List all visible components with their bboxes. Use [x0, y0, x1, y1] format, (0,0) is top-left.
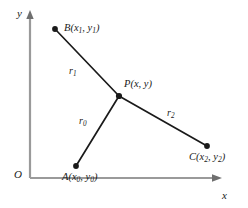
segment-label-r1: r1 — [69, 66, 77, 76]
segment-label-r0: r0 — [79, 116, 87, 126]
y-axis-label: y — [17, 8, 22, 19]
point-label-A: A(x0, y0) — [62, 172, 98, 183]
y-axis-arrow-icon — [26, 10, 33, 19]
point-label-A-mid: , y — [80, 171, 90, 182]
point-label-B: B(x1, y1) — [64, 23, 100, 34]
point-marker-C — [204, 143, 210, 149]
segment-label-r2: r2 — [167, 108, 175, 118]
point-label-B-mid: , y — [82, 22, 92, 33]
point-label-P: P(x, y) — [124, 79, 152, 90]
point-label-C-sub2: 2 — [218, 155, 222, 164]
segment-label-r0-sub: 0 — [83, 120, 87, 128]
point-marker-A — [73, 163, 79, 169]
point-label-B-sub2: 1 — [92, 26, 96, 35]
point-label-B-head: B(x — [64, 22, 79, 33]
point-label-B-sub1: 1 — [79, 26, 83, 35]
figure-canvas — [0, 0, 248, 208]
segment-label-r2-sub: 2 — [171, 112, 175, 120]
point-marker-B — [52, 26, 58, 32]
segment-r2-line — [119, 96, 207, 146]
point-label-C-sub1: 2 — [204, 155, 208, 164]
segment-r0-line — [76, 96, 119, 166]
segment-label-r1-sub: 1 — [73, 70, 77, 78]
point-label-A-sub2: 0 — [90, 175, 94, 184]
point-label-C-head: C(x — [189, 151, 204, 162]
point-label-A-close: ) — [94, 171, 98, 182]
x-axis-arrow-icon — [212, 174, 222, 182]
figure-container: y x O B(x1, y1) P(x, y) C(x2, y2) A(x0, … — [0, 0, 248, 208]
point-label-C: C(x2, y2) — [189, 152, 225, 163]
point-label-A-sub1: 0 — [77, 175, 81, 184]
x-axis-label: x — [222, 190, 227, 201]
point-label-B-close: ) — [96, 22, 100, 33]
segment-r1-line — [55, 29, 119, 96]
point-label-P-text: P(x, y) — [124, 78, 152, 89]
point-marker-P — [116, 93, 122, 99]
point-label-A-head: A(x — [62, 171, 77, 182]
point-label-C-close: ) — [222, 151, 226, 162]
origin-label: O — [14, 169, 22, 180]
point-label-C-mid: , y — [208, 151, 218, 162]
